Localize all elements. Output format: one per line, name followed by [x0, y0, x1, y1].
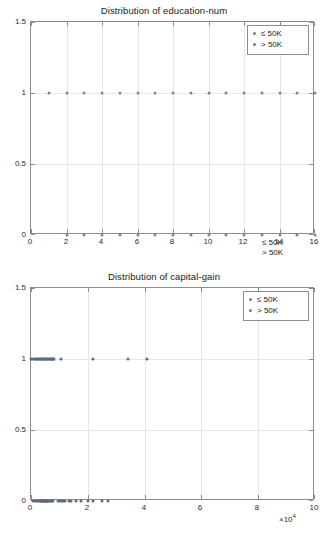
- x-axis-tick: [102, 229, 103, 233]
- y-axis-tick-label: 1: [0, 354, 26, 363]
- gridline-vertical: [201, 288, 202, 499]
- x-axis-tick: [314, 229, 315, 233]
- y-axis-tick: [309, 430, 313, 431]
- data-point-marker: [59, 358, 62, 361]
- x-axis-tick: [88, 495, 89, 499]
- data-point-marker: [92, 500, 95, 503]
- data-point-marker: [118, 234, 121, 237]
- gridline-vertical: [102, 22, 103, 233]
- legend-capital-gain[interactable]: ≤ 50K > 50K: [243, 291, 309, 321]
- x-axis-exponent-label: ×104: [279, 513, 296, 524]
- chart-title-capital-gain: Distribution of capital-gain: [0, 271, 328, 282]
- data-point-marker: [225, 92, 228, 95]
- chart-capital-gain: Distribution of capital-gain ≤ 50K > 50K…: [0, 266, 328, 539]
- data-point-marker: [74, 500, 77, 503]
- gridline-vertical: [173, 22, 174, 233]
- x-axis-tick: [201, 495, 202, 499]
- x-axis-tick-label: 0: [28, 503, 32, 512]
- x-axis-tick: [201, 288, 202, 292]
- gridline-horizontal: [31, 359, 313, 360]
- y-axis-tick: [31, 288, 35, 289]
- data-point-marker: [189, 234, 192, 237]
- x-axis-tick: [258, 495, 259, 499]
- legend-label-gt-50k: > 50K: [261, 40, 282, 49]
- x-axis-tick: [173, 229, 174, 233]
- gridline-horizontal: [31, 164, 313, 165]
- gridline-horizontal: [31, 430, 313, 431]
- y-axis-tick: [309, 22, 313, 23]
- data-point-marker: [243, 92, 246, 95]
- x-axis-tick: [173, 22, 174, 26]
- x-axis-tick-label: 10: [204, 237, 213, 246]
- gridline-vertical: [244, 22, 245, 233]
- x-axis-tick-label: 4: [142, 503, 146, 512]
- x-axis-tick-label: 2: [64, 237, 68, 246]
- data-point-marker: [118, 92, 121, 95]
- x-axis-tick: [244, 22, 245, 26]
- data-point-marker: [154, 234, 157, 237]
- y-axis-tick: [309, 93, 313, 94]
- data-point-marker: [52, 500, 55, 503]
- x-axis-tick: [88, 288, 89, 292]
- chart-education-num: Distribution of education-num ≤ 50K > 50…: [0, 0, 328, 266]
- data-point-marker: [64, 500, 67, 503]
- legend-label-le-50k: ≤ 50K: [261, 29, 282, 38]
- x-axis-tick: [67, 22, 68, 26]
- x-axis-tick-label: 12: [239, 237, 248, 246]
- y-axis-tick: [31, 164, 35, 165]
- data-point-marker: [106, 500, 109, 503]
- y-axis-tick: [309, 500, 313, 501]
- data-point-marker: [314, 92, 317, 95]
- y-axis-tick-label: 1.5: [0, 283, 26, 292]
- legend-marker-icon: [249, 298, 252, 301]
- data-point-marker: [92, 358, 95, 361]
- data-point-marker: [47, 92, 50, 95]
- legend-item-gt-50k[interactable]: > 50K: [251, 39, 303, 50]
- data-point-marker: [207, 92, 210, 95]
- y-axis-tick: [31, 430, 35, 431]
- y-axis-tick: [309, 288, 313, 289]
- x-axis-tick-label: 4: [99, 237, 103, 246]
- data-point-marker: [225, 234, 228, 237]
- data-point-marker: [260, 234, 263, 237]
- legend-marker-icon: [253, 43, 256, 46]
- x-axis-tick-label: 0: [28, 237, 32, 246]
- data-point-marker: [79, 500, 82, 503]
- y-axis-tick-label: 0.5: [0, 159, 26, 168]
- x-axis-tick: [145, 495, 146, 499]
- x-axis-tick-label: 8: [255, 503, 259, 512]
- x-axis-tick-label: 2: [85, 503, 89, 512]
- x-axis-tick: [145, 288, 146, 292]
- legend-education-num[interactable]: ≤ 50K > 50K: [247, 25, 309, 55]
- data-point-marker: [296, 92, 299, 95]
- legend-label-gt-50k: > 50K: [257, 306, 278, 315]
- x-axis-tick-label: 16: [310, 237, 319, 246]
- data-point-marker: [260, 92, 263, 95]
- data-point-marker: [83, 92, 86, 95]
- y-axis-tick: [31, 93, 35, 94]
- data-point-marker: [101, 92, 104, 95]
- data-point-marker: [172, 92, 175, 95]
- y-axis-tick-label: 0: [0, 230, 26, 239]
- x-axis-tick: [209, 229, 210, 233]
- data-point-marker: [101, 500, 104, 503]
- data-point-marker: [146, 358, 149, 361]
- legend-marker-icon: [249, 309, 252, 312]
- legend-item-le-50k[interactable]: ≤ 50K: [247, 294, 303, 305]
- y-axis-tick: [31, 234, 35, 235]
- x-axis-tick: [244, 229, 245, 233]
- x-axis-tick: [31, 495, 32, 499]
- data-point-marker: [278, 92, 281, 95]
- x-axis-tick-label: 10: [310, 503, 319, 512]
- data-point-marker: [70, 500, 73, 503]
- x-axis-tick: [67, 229, 68, 233]
- x-axis-tick-label: 14: [275, 237, 284, 246]
- legend-item-gt-50k[interactable]: > 50K: [247, 305, 303, 316]
- gridline-vertical: [138, 22, 139, 233]
- legend-item-le-50k[interactable]: ≤ 50K: [251, 28, 303, 39]
- data-point-marker: [65, 92, 68, 95]
- y-axis-tick-label: 0: [0, 496, 26, 505]
- x-axis-exponent-power: 4: [293, 513, 296, 519]
- y-axis-tick-label: 0.5: [0, 425, 26, 434]
- legend-marker-icon: [253, 32, 256, 35]
